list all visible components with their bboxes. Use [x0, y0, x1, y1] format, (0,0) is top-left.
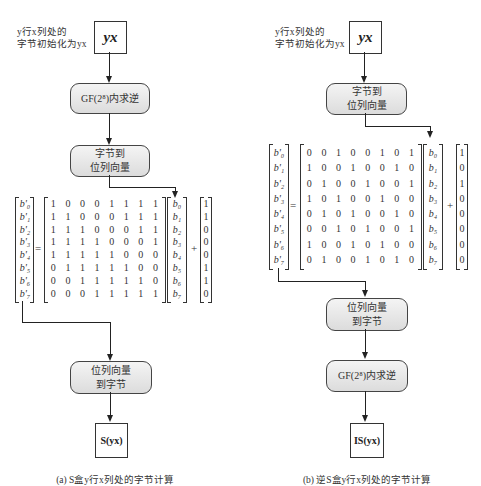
matrix-cell: 0 [134, 262, 149, 275]
matrix-cell: 0 [375, 176, 390, 191]
matrix-cell: 0 [119, 236, 134, 249]
vector-cell: b₄ [170, 249, 184, 262]
bracket [183, 197, 187, 303]
matrix-cell: 1 [75, 249, 90, 262]
matrix-cell: 1 [61, 236, 76, 249]
note-line: 字节初始化为yx [275, 38, 345, 50]
vector-cell: b₂ [170, 224, 184, 237]
connector [22, 322, 111, 323]
matrix-cell: 1 [331, 191, 346, 206]
connector [110, 392, 111, 416]
matrix-cell: 0 [90, 198, 105, 211]
matrix-cell: 0 [375, 221, 390, 236]
matrix-cell: 0 [375, 252, 390, 267]
matrix-cell: 1 [104, 288, 119, 301]
vector-cell: b'₃ [272, 191, 286, 206]
matrix-cell: 0 [46, 288, 61, 301]
matrix-cell: 0 [404, 237, 419, 252]
connector [364, 52, 365, 77]
matrix-cell: 1 [61, 224, 76, 237]
vector-cell: b'₆ [272, 237, 286, 252]
matrix-cell: 0 [90, 224, 105, 237]
matrix-cell: 1 [302, 191, 317, 206]
affine-matrix: 1000111111000111111000111111000111111000… [46, 198, 163, 300]
bracket [162, 197, 166, 303]
matrix-cell: 0 [104, 224, 119, 237]
init-note: y行x列处的 字节初始化为yx [17, 26, 87, 50]
matrix-cell: 0 [317, 191, 332, 206]
arrow-down-icon [107, 354, 113, 361]
vector-cell: b₃ [426, 191, 440, 206]
matrix-cell: 0 [346, 145, 361, 160]
matrix-cell: 0 [302, 221, 317, 236]
matrix-cell: 0 [317, 221, 332, 236]
matrix-cell: 1 [390, 206, 405, 221]
matrix-cell: 0 [90, 211, 105, 224]
matrix-cell: 0 [346, 176, 361, 191]
vector-cell: b₀ [170, 198, 184, 211]
note-line: y行x列处的 [275, 26, 345, 38]
matrix-cell: 0 [331, 237, 346, 252]
arrow-down-icon [106, 138, 112, 145]
matrix-cell: 0 [404, 206, 419, 221]
matrix-cell: 0 [61, 198, 76, 211]
matrix-cell: 1 [119, 275, 134, 288]
connector [110, 322, 111, 354]
matrix-cell: 1 [90, 262, 105, 275]
matrix-cell: 1 [119, 198, 134, 211]
matrix-cell: 1 [46, 211, 61, 224]
matrix-cell: 0 [134, 236, 149, 249]
matrix-cell: 0 [331, 206, 346, 221]
vector-cell: b₁ [426, 160, 440, 175]
matrix-cell: 1 [404, 221, 419, 236]
matrix-cell: 1 [346, 237, 361, 252]
matrix-cell: 1 [75, 236, 90, 249]
matrix-cell: 1 [46, 224, 61, 237]
note-line: y行x列处的 [17, 26, 87, 38]
matrix-cell: 0 [346, 252, 361, 267]
step-label: 到字节 [347, 315, 387, 329]
matrix-cell: 0 [346, 191, 361, 206]
matrix-cell: 1 [104, 262, 119, 275]
arrow-down-icon [172, 191, 178, 198]
output-byte-box: IS(yx) [350, 423, 384, 458]
matrix-cell: 1 [134, 288, 149, 301]
vector-cell: b₂ [426, 176, 440, 191]
vector-cell: b₃ [170, 236, 184, 249]
gf-inverse-box: GF(2⁸)内求逆 [326, 360, 408, 392]
matrix-cell: 0 [75, 198, 90, 211]
input-byte-box: yx [349, 21, 382, 54]
step-label: GF(2⁸)内求逆 [81, 92, 139, 106]
matrix-cell: 1 [390, 252, 405, 267]
connector [278, 268, 279, 282]
matrix-cell: 0 [61, 288, 76, 301]
matrix-cell: 0 [346, 221, 361, 236]
matrix-cell: 0 [148, 275, 163, 288]
matrix-cell: 1 [90, 236, 105, 249]
vector-cell: b₆ [426, 237, 440, 252]
matrix-cell: 1 [302, 237, 317, 252]
matrix-cell: 0 [331, 176, 346, 191]
matrix-cell: 1 [46, 249, 61, 262]
matrix-cell: 1 [119, 288, 134, 301]
arrow-down-icon [362, 415, 368, 422]
matrix-cell: 1 [302, 160, 317, 175]
byte-to-bit-box: 字节到 位列向量 [70, 145, 150, 177]
matrix-cell: 0 [75, 288, 90, 301]
matrix-cell: 1 [134, 275, 149, 288]
matrix-cell: 1 [134, 198, 149, 211]
matrix-cell: 1 [148, 236, 163, 249]
vector-cell: b'₅ [272, 221, 286, 236]
init-note: y行x列处的 字节初始化为yx [275, 26, 345, 50]
step-label: 位列向量 [347, 301, 387, 315]
inverse-affine-matrix: 0010010110010010010010011010010001010010… [302, 145, 419, 267]
vector-cell: b₄ [426, 206, 440, 221]
bracket [418, 144, 422, 270]
matrix-cell: 1 [360, 176, 375, 191]
vector-cell: b₀ [426, 145, 440, 160]
matrix-cell: 0 [331, 252, 346, 267]
input-bit-vector: b₀ b₁ b₂ b₃ b₄ b₅ b₆ b₇ [170, 198, 184, 300]
step-label: 到字节 [91, 378, 131, 392]
matrix-cell: 1 [134, 211, 149, 224]
matrix-cell: 1 [317, 176, 332, 191]
